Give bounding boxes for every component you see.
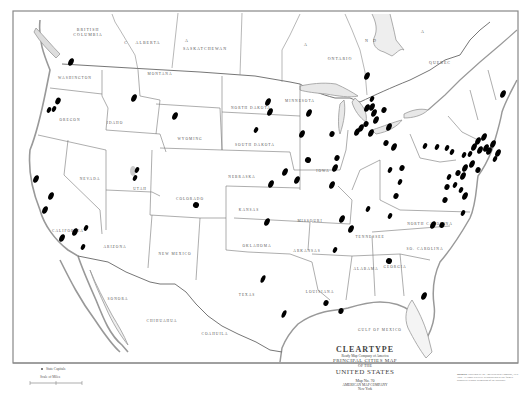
map-title-block: CLEARTYPE Ready Map Company of America P…: [300, 345, 430, 391]
region-label: TEXAS: [239, 293, 256, 297]
region-label: NORTH DAKOTA: [231, 106, 271, 110]
region-label: A: [421, 29, 425, 34]
scale-bar: [30, 381, 82, 385]
map-title: CLEARTYPE: [300, 345, 430, 354]
region-label: N: [365, 38, 369, 43]
region-label: A: [185, 38, 189, 43]
region-label: WASHINGTON: [58, 76, 92, 80]
map-country: UNITED STATES: [300, 368, 430, 376]
region-label: ARKANSAS: [293, 249, 320, 253]
region-label: COLUMBIA: [73, 32, 102, 37]
region-label: MISSOURI: [297, 219, 322, 223]
us-principal-cities-map: BRITISHCOLUMBIACALBERTAASASKATCHEWANAONT…: [0, 0, 530, 409]
legend-scale: Scale of Miles: [40, 375, 65, 379]
region-label: OREGON: [60, 118, 81, 122]
region-label: ONTARIO: [328, 56, 353, 61]
region-label: ALABAMA: [353, 267, 378, 271]
copyright-notice: NOTICE Copyright by the American Map Com…: [457, 373, 519, 382]
region-label: D: [373, 38, 377, 43]
map-publisher-2: New York: [300, 387, 430, 391]
region-label: IDAHO: [107, 121, 124, 125]
legend-capitals: State Capitals: [46, 367, 65, 371]
region-label: SOUTH DAKOTA: [235, 143, 275, 147]
region-label: KANSAS: [239, 208, 259, 212]
region-label: COAHUILA: [202, 332, 229, 336]
region-label: UTAH: [133, 187, 147, 191]
region-label: NORTH CAROLINA: [407, 222, 453, 226]
region-label: CALIFORNIA: [52, 229, 84, 233]
region-label: ALBERTA: [136, 40, 161, 45]
region-label: ARIZONA: [103, 245, 126, 249]
region-label: LOUISIANA: [306, 290, 335, 294]
region-label: NEVADA: [80, 177, 101, 181]
region-label: MONTANA: [147, 72, 172, 76]
region-label: TENNESSEE: [355, 235, 384, 239]
region-label: CHIHUAHUA: [147, 319, 178, 323]
region-label: NEW MEXICO: [158, 252, 191, 256]
notice-text: Copyright by the American Map Company, N…: [457, 373, 518, 382]
region-label: SONORA: [108, 297, 129, 301]
region-label: SASKATCHEWAN: [183, 46, 227, 51]
region-label: GULF OF MEXICO: [358, 328, 402, 332]
map-legend: State Capitals Scale of Miles: [28, 367, 65, 379]
region-label: NEBRASKA: [228, 175, 255, 179]
region-label: A: [304, 42, 308, 47]
region-label: C: [124, 40, 128, 45]
region-label: SO. CAROLINA: [407, 247, 444, 251]
region-label: QUEBEC: [429, 60, 451, 65]
region-label: OKLAHOMA: [243, 244, 272, 248]
region-label: MINNESOTA: [285, 99, 315, 103]
region-label: IOWA: [316, 169, 329, 173]
region-label: WYOMING: [177, 137, 202, 141]
region-label: GEORGIA: [383, 265, 406, 269]
region-label: COLORADO: [176, 197, 204, 201]
